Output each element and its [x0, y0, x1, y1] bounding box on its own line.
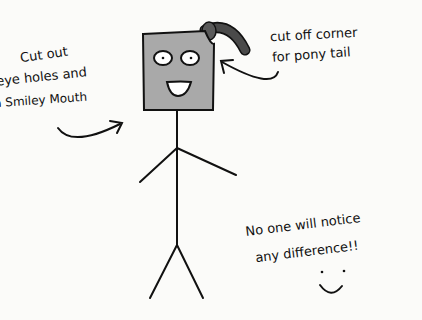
small-smiley-icon: [320, 270, 345, 293]
arrow-icon: [58, 121, 122, 137]
stick-body: [140, 110, 236, 298]
arrow-icon: [221, 60, 278, 79]
square-head: [143, 31, 214, 110]
drawing-canvas: Cut out eye holes and a Smiley Mouth cut…: [0, 0, 422, 320]
